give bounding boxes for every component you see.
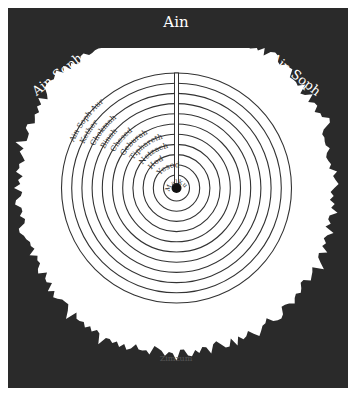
tzimtzum-diagram: Ain Soph AurKetherChokmahBinahChesedGebu… [0, 0, 356, 395]
label-ain: Ain [162, 13, 189, 31]
label-zimzum: Zimzum [160, 354, 193, 363]
